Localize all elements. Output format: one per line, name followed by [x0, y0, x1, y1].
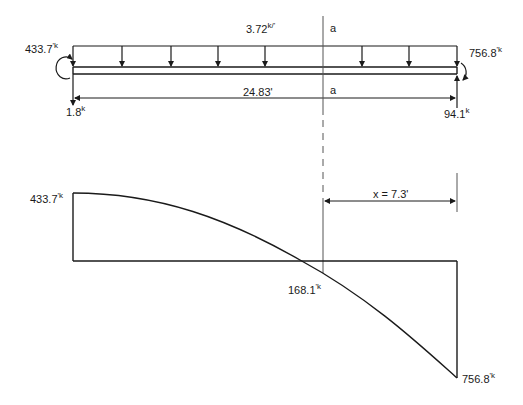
distributed-load-label: 3.72k/'	[246, 23, 275, 35]
section-label-bottom: a	[330, 84, 336, 96]
span-length-label: 24.83'	[243, 86, 273, 98]
beam-diagram-canvas	[0, 0, 523, 405]
moment-left-label: 433.7'k	[30, 193, 63, 205]
left-reaction-label: 1.8k	[66, 106, 85, 118]
moment-right-label: 756.8'k	[462, 373, 495, 385]
left-moment-label: 433.7'k	[25, 43, 58, 55]
left-moment-arrow-icon	[56, 57, 72, 79]
section-label-top: a	[330, 22, 336, 34]
distributed-load	[73, 46, 457, 66]
right-reaction-label: 94.1k	[444, 108, 469, 120]
right-moment-label: 756.8'k	[469, 47, 502, 59]
moment-diagram	[73, 193, 457, 378]
moment-mid-label: 168.1'k	[288, 284, 321, 296]
right-moment-arrow-icon	[461, 63, 466, 80]
beam	[73, 67, 457, 74]
x-distance-label: x = 7.3'	[373, 188, 408, 200]
